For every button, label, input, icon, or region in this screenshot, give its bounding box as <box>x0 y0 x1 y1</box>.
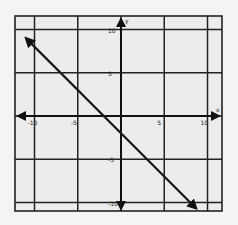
y-tick-label: -10 <box>108 200 118 207</box>
y-tick-label: 5 <box>108 70 112 77</box>
x-tick-label: -10 <box>28 119 38 126</box>
y-tick-label: 10 <box>108 27 116 34</box>
x-tick-label: 10 <box>201 119 209 126</box>
grid-border <box>15 16 222 211</box>
x-tick-label: -5 <box>71 119 77 126</box>
major-gridlines <box>15 16 222 211</box>
coordinate-plane: xy-10-5510105-5-10 <box>0 0 238 225</box>
y-axis-label: y <box>125 17 129 25</box>
y-tick-label: -5 <box>108 156 114 163</box>
x-tick-label: 5 <box>157 119 161 126</box>
x-axis-label: x <box>216 106 220 113</box>
